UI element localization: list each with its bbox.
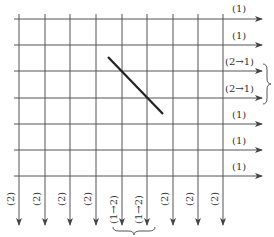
row-label: (1) [232, 31, 246, 41]
row-label: (1) [232, 136, 246, 146]
row-label: (2→1) [225, 84, 254, 94]
column-label: (2) [185, 192, 195, 206]
column-label: (1→2) [134, 195, 144, 224]
row-label: (1) [232, 110, 246, 120]
row-label: (2→1) [225, 57, 254, 67]
column-label: (2) [83, 192, 93, 206]
column-label: (1→2) [109, 195, 119, 224]
row-label: (1) [232, 162, 246, 172]
bottom-brace [113, 227, 155, 235]
column-label: (2) [160, 192, 170, 206]
column-label: (2) [57, 192, 67, 206]
diagonal-segment [108, 57, 163, 114]
right-brace [263, 64, 271, 104]
column-label: (2) [6, 192, 16, 206]
column-label: (2) [32, 192, 42, 206]
column-label: (2) [210, 192, 220, 206]
grid-diagram: (1) (1) (2→1) (2→1) (1) (1) (1) (2) (2) … [0, 0, 274, 237]
row-label: (1) [232, 4, 246, 14]
horizontal-lines [14, 19, 262, 176]
